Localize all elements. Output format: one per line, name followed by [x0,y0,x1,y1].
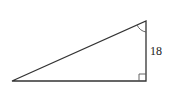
triangle-shape [12,21,146,81]
angle-arc-marker [137,25,146,32]
right-angle-marker [139,74,146,81]
side-length-label: 18 [150,44,162,58]
right-triangle-diagram: 18 [0,0,170,89]
